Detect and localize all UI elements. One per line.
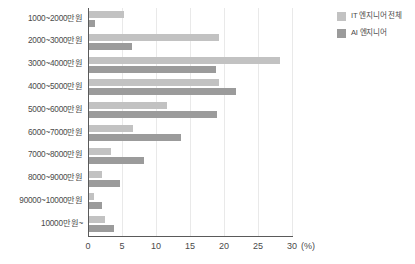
x-axis-tick-label: 30 xyxy=(287,240,297,252)
legend: IT 엔지니어 전체AI 엔지니어 xyxy=(337,11,415,45)
bar xyxy=(88,20,95,27)
y-axis-tick-label: 90000~10000만원 xyxy=(0,196,83,206)
x-axis-unit-label: (%) xyxy=(301,240,315,252)
bar xyxy=(88,79,219,86)
bar xyxy=(88,57,280,64)
y-axis-tick-label: 3000~4000만원 xyxy=(0,59,83,69)
y-axis-tick-label: 2000~3000만원 xyxy=(0,36,83,46)
bar xyxy=(88,88,236,95)
bar-group xyxy=(88,190,292,213)
plot-area xyxy=(88,8,292,236)
y-axis-tick-label: 1000~2000만원 xyxy=(0,14,83,24)
bar-group xyxy=(88,99,292,122)
bar-group xyxy=(88,122,292,145)
bar xyxy=(88,216,105,223)
bar-group xyxy=(88,168,292,191)
bar xyxy=(88,125,133,132)
bar-group xyxy=(88,213,292,236)
y-axis-tick-label: 5000~6000만원 xyxy=(0,105,83,115)
bar xyxy=(88,171,102,178)
bar-group xyxy=(88,145,292,168)
y-axis-tick-label: 6000~7000만원 xyxy=(0,128,83,138)
legend-item[interactable]: AI 엔지니어 xyxy=(337,28,415,38)
x-axis-line xyxy=(88,236,293,237)
x-axis-tick-label: 25 xyxy=(253,240,263,252)
legend-label: IT 엔지니어 전체 xyxy=(351,11,402,21)
x-axis-tick-label: 5 xyxy=(119,240,124,252)
bar xyxy=(88,157,144,164)
x-axis-tick-label: 10 xyxy=(151,240,161,252)
bar xyxy=(88,202,102,209)
x-axis-tick-labels: 051015202530 xyxy=(0,240,415,256)
bar-group xyxy=(88,31,292,54)
y-axis-tick-label: 10000만원~ xyxy=(0,219,83,229)
y-axis-tick-label: 8000~9000만원 xyxy=(0,173,83,183)
bar xyxy=(88,11,124,18)
bar xyxy=(88,102,167,109)
bar xyxy=(88,134,181,141)
bar xyxy=(88,180,120,187)
bar xyxy=(88,111,217,118)
legend-label: AI 엔지니어 xyxy=(351,28,387,38)
legend-swatch xyxy=(337,29,346,38)
bar xyxy=(88,66,216,73)
y-axis-tick-labels: 1000~2000만원2000~3000만원3000~4000만원4000~50… xyxy=(0,8,83,236)
y-axis-tick-label: 4000~5000만원 xyxy=(0,82,83,92)
bar-chart: 1000~2000만원2000~3000만원3000~4000만원4000~50… xyxy=(0,0,415,264)
bar-group xyxy=(88,8,292,31)
x-axis-tick-label: 20 xyxy=(219,240,229,252)
bar-group xyxy=(88,76,292,99)
x-axis-tick-label: 15 xyxy=(185,240,195,252)
bar xyxy=(88,43,132,50)
legend-swatch xyxy=(337,12,346,21)
bar xyxy=(88,225,114,232)
legend-item[interactable]: IT 엔지니어 전체 xyxy=(337,11,415,21)
bar xyxy=(88,148,111,155)
x-axis-tick-label: 0 xyxy=(85,240,90,252)
y-axis-line xyxy=(88,8,89,237)
y-axis-tick-label: 7000~8000만원 xyxy=(0,150,83,160)
bar xyxy=(88,34,219,41)
grid-line xyxy=(292,8,293,236)
bar-group xyxy=(88,54,292,77)
